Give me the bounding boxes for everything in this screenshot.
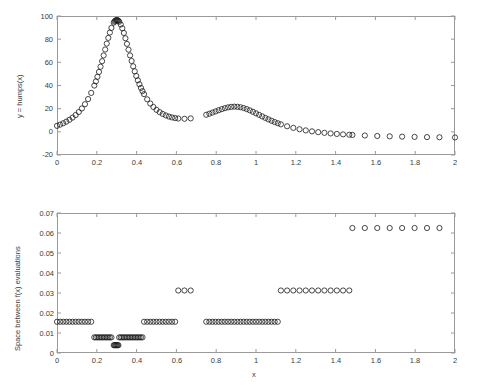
- top-panel: y = humps(x) 100 80 60 40 20 0 -20 0 0.2…: [0, 0, 484, 190]
- bottom-plot-markers: [0, 199, 484, 389]
- bottom-panel: Space between f(x) evaluations 0.07 0.06…: [0, 199, 484, 389]
- top-plot-markers: [0, 0, 484, 190]
- matlab-figure: y = humps(x) 100 80 60 40 20 0 -20 0 0.2…: [0, 0, 484, 389]
